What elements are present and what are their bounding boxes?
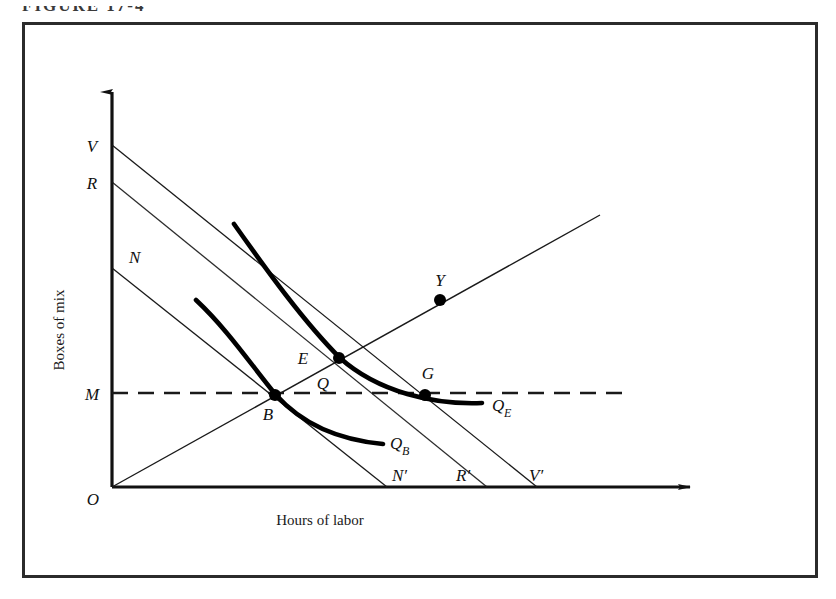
point-Y — [434, 294, 446, 306]
label-point-B: B — [263, 405, 274, 424]
budget-line-RR — [112, 182, 487, 487]
label-point-E: E — [297, 349, 309, 368]
y-axis-title: Boxes of mix — [51, 289, 67, 370]
label-M: M — [84, 385, 100, 404]
point-labels-group: B E G Y Q — [263, 271, 446, 424]
indifference-curves-group — [196, 224, 482, 444]
curve-label-QE-subscript: E — [503, 406, 512, 420]
label-R: R — [86, 174, 98, 193]
point-G — [419, 389, 431, 401]
point-E — [333, 352, 345, 364]
axis-group — [112, 92, 690, 487]
label-annotation-Q: Q — [317, 374, 329, 393]
curve-label-QE: Q E — [492, 396, 512, 420]
curve-label-QB-base: Q — [390, 434, 402, 453]
label-V-prime: V′ — [529, 466, 543, 485]
label-point-Y: Y — [435, 271, 446, 290]
indifference-curve-QE — [234, 224, 482, 403]
label-V: V — [87, 137, 100, 156]
label-O: O — [87, 490, 99, 509]
x-axis-title: Hours of labor — [276, 512, 363, 528]
expansion-path-ray — [112, 215, 600, 487]
economics-indifference-diagram: V R N M O N′ R′ V′ B E G Y Q Q B Q E Box… — [0, 0, 836, 599]
budget-line-NN — [112, 268, 387, 487]
curve-label-QB-subscript: B — [402, 444, 410, 458]
curve-label-QB: Q B — [390, 434, 410, 458]
label-N-prime: N′ — [391, 466, 407, 485]
label-point-G: G — [422, 364, 434, 383]
point-B — [269, 389, 281, 401]
label-N: N — [128, 248, 142, 267]
curve-label-QE-base: Q — [492, 396, 504, 415]
budget-line-VV — [112, 145, 537, 487]
label-R-prime: R′ — [455, 466, 470, 485]
intercept-labels-group: V R N M O N′ R′ V′ — [84, 137, 543, 509]
curve-labels-group: Q B Q E — [390, 396, 512, 458]
budget-lines-group — [112, 145, 537, 487]
